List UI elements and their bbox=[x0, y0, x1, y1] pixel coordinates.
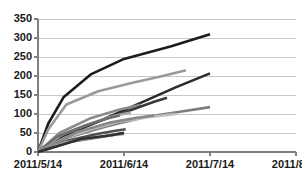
y-axis-tick-label: 50 bbox=[2, 127, 32, 138]
x-axis-tick-label: 2011/8/14 bbox=[256, 158, 302, 170]
x-axis-tick-label: 2011/7/14 bbox=[170, 158, 250, 170]
chart-plot-area bbox=[0, 0, 302, 178]
y-axis-tick-label: 150 bbox=[2, 89, 32, 100]
y-axis-tick-label: 300 bbox=[2, 32, 32, 43]
y-axis-tick-label: 0 bbox=[2, 146, 32, 157]
x-axis-tick-label: 2011/5/14 bbox=[0, 158, 78, 170]
y-axis-tick-label: 200 bbox=[2, 70, 32, 81]
data-series-group bbox=[38, 34, 210, 152]
y-axis-tick-label: 250 bbox=[2, 51, 32, 62]
line-chart: 050100150200250300350 2011/5/142011/6/14… bbox=[0, 0, 302, 178]
x-axis-tick-label: 2011/6/14 bbox=[84, 158, 164, 170]
y-axis-tick-label: 100 bbox=[2, 108, 32, 119]
y-axis-tick-label: 350 bbox=[2, 13, 32, 24]
